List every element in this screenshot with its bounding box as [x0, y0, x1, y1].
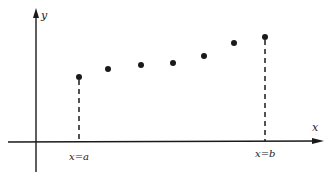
data-point [170, 60, 176, 66]
diagram-canvas: y x x=a x=b [0, 0, 330, 178]
data-point [201, 53, 207, 59]
data-point [105, 66, 111, 72]
x-axis [8, 141, 318, 142]
data-points [76, 34, 268, 80]
x-axis-arrow-icon [312, 138, 324, 144]
y-axis-label: y [40, 9, 48, 22]
y-axis-arrow-icon [33, 8, 39, 18]
data-point [231, 40, 237, 46]
data-point [76, 74, 82, 80]
data-point [138, 62, 144, 68]
boundary-lines [79, 40, 265, 141]
data-point [262, 34, 268, 40]
boundary-label-b: x=b [255, 148, 275, 159]
x-axis-label: x [312, 121, 319, 134]
boundary-label-a: x=a [69, 151, 89, 162]
